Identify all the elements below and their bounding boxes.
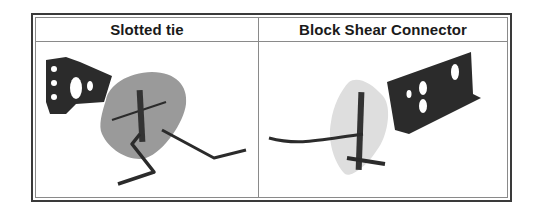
column-header-label: Slotted tie [110, 21, 184, 38]
slotted-tie-image-cell [36, 42, 259, 197]
table-grid: Slotted tie Block Shear Connector [36, 18, 507, 197]
figure-table: Slotted tie Block Shear Connector [31, 13, 512, 202]
column-header-block-shear-connector: Block Shear Connector [259, 18, 507, 42]
column-header-slotted-tie: Slotted tie [36, 18, 259, 42]
slotted-tie-photo [36, 42, 259, 197]
figure-table-inner-frame: Slotted tie Block Shear Connector [35, 17, 508, 198]
block-shear-connector-image-cell [259, 42, 507, 197]
block-shear-connector-photo [259, 42, 507, 197]
column-header-label: Block Shear Connector [299, 21, 467, 38]
